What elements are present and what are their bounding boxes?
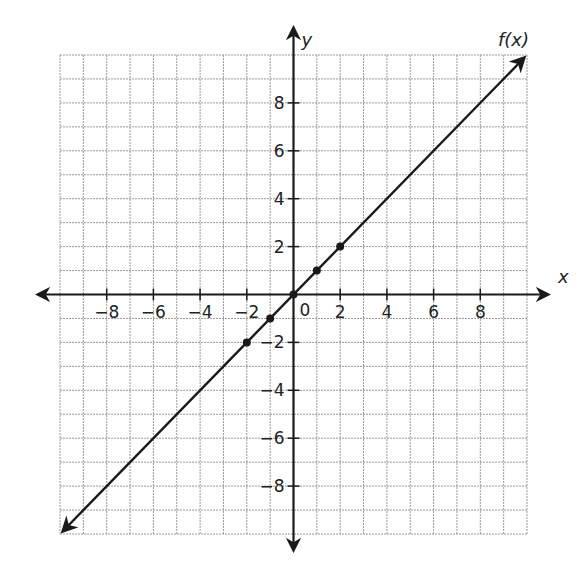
y-tick-label: −2 [259, 332, 284, 352]
x-tick-label: 8 [475, 302, 486, 322]
x-tick-label: −4 [188, 302, 213, 322]
origin-label: 0 [300, 300, 311, 320]
x-tick-label: 2 [335, 302, 346, 322]
function-label: f(x) [498, 29, 529, 50]
y-axis-label: y [301, 29, 313, 50]
y-tick-label: 2 [274, 237, 285, 257]
y-tick-label: −8 [259, 476, 284, 496]
y-tick-label: −4 [259, 380, 284, 400]
x-tick-label: 6 [428, 302, 439, 322]
y-tick-label: 6 [274, 141, 285, 161]
y-tick-label: 8 [274, 93, 285, 113]
x-tick-label: −2 [234, 302, 259, 322]
x-axis-label: x [557, 266, 569, 287]
x-tick-label: −6 [141, 302, 166, 322]
data-point [336, 243, 344, 251]
y-tick-label: 4 [274, 189, 285, 209]
data-point [313, 267, 321, 275]
axes [38, 28, 548, 550]
coordinate-plane: −8−6−4−224688642−2−4−6−8 x y f(x) 0 [0, 0, 578, 564]
x-tick-label: −8 [94, 302, 119, 322]
data-point [290, 291, 298, 299]
x-tick-label: 4 [381, 302, 392, 322]
y-tick-label: −6 [259, 428, 284, 448]
data-point [266, 314, 274, 322]
data-point [243, 338, 251, 346]
